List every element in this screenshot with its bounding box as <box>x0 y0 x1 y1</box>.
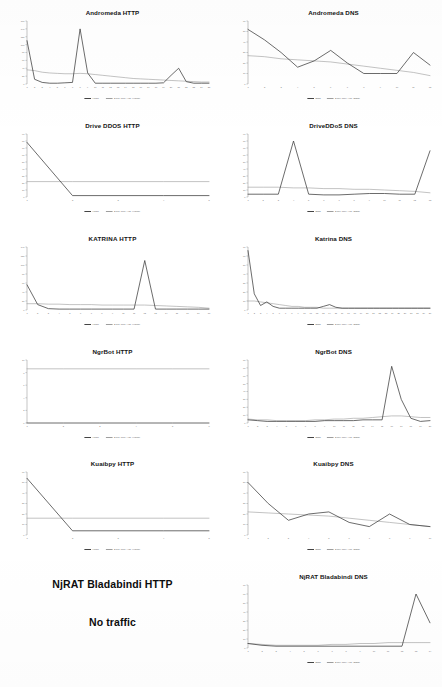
svg-text:8: 8 <box>345 650 347 652</box>
svg-text:40: 40 <box>242 41 245 43</box>
svg-text:50: 50 <box>21 482 24 484</box>
svg-text:80: 80 <box>21 51 24 53</box>
svg-text:4: 4 <box>162 538 164 540</box>
svg-text:30: 30 <box>242 398 245 400</box>
legend-trend-label: 2 per. Mov. Avg. (HTTP) <box>114 210 140 213</box>
legend-trend-line-icon <box>105 324 112 325</box>
svg-text:2: 2 <box>71 199 73 201</box>
chart-cell-njrat-http-no-traffic: NjRAT Bladabindi HTTP No traffic <box>4 570 221 683</box>
legend-trend-label: 2 per. Mov. Avg. (DNS) <box>335 436 360 439</box>
legend-line-icon <box>307 549 314 550</box>
chart-svg: 0102030405060708012345678910111213141516… <box>234 356 434 434</box>
plot-andromeda-http: 0204060801001201401601234567891011121314… <box>13 17 213 95</box>
svg-text:80: 80 <box>21 140 24 142</box>
svg-text:50: 50 <box>242 602 245 604</box>
chart-svg: 010203040506012345678910 <box>234 468 434 546</box>
svg-text:8: 8 <box>23 371 25 373</box>
chart-cell-katrina-dns: Katrina DNS 0102030405060701234567891011… <box>225 232 442 345</box>
legend-line-icon <box>85 324 92 325</box>
svg-text:120: 120 <box>20 36 24 38</box>
legend-trend-line-icon <box>105 549 112 550</box>
svg-text:10: 10 <box>122 312 125 314</box>
svg-text:60: 60 <box>21 471 24 473</box>
chart-title: KATRINA HTTP <box>88 235 136 242</box>
svg-text:5: 5 <box>308 199 310 201</box>
svg-text:3: 3 <box>275 650 277 652</box>
svg-text:28: 28 <box>416 312 419 314</box>
legend-trend-label: 2 per. Mov. Avg. (HTTP) <box>114 548 140 551</box>
svg-text:7: 7 <box>368 538 370 540</box>
legend-item-trend: 2 per. Mov. Avg. (DNS) <box>326 661 359 664</box>
svg-text:2: 2 <box>23 409 25 411</box>
legend-item-series: DNS <box>307 548 320 551</box>
svg-text:11: 11 <box>132 312 135 314</box>
svg-text:30: 30 <box>242 282 245 284</box>
legend-line-icon <box>85 437 92 438</box>
legend-item-trend: 2 per. Mov. Avg. (HTTP) <box>105 97 139 100</box>
chart-title: NgrBot DNS <box>315 348 352 355</box>
svg-text:160: 160 <box>20 20 24 22</box>
svg-text:1: 1 <box>247 86 249 88</box>
svg-text:2: 2 <box>33 86 35 88</box>
legend-item-series: HTTP <box>85 323 100 326</box>
svg-text:9: 9 <box>379 86 381 88</box>
svg-text:16: 16 <box>390 425 393 427</box>
svg-text:5: 5 <box>69 312 71 314</box>
svg-text:14: 14 <box>124 86 127 88</box>
chart-svg: 0204060801001201401601234567891011121314… <box>13 17 213 95</box>
svg-text:4: 4 <box>276 425 278 427</box>
legend-series-label: DNS <box>315 97 320 100</box>
svg-text:10: 10 <box>242 638 245 640</box>
chart-grid: Andromeda HTTP 0204060801001201401601234… <box>4 6 442 683</box>
svg-text:20: 20 <box>242 291 245 293</box>
svg-text:0: 0 <box>244 647 246 649</box>
svg-text:12: 12 <box>400 650 403 652</box>
legend-item-trend: 2 per. Mov. Avg. (HTTP) <box>105 548 139 551</box>
svg-text:80: 80 <box>21 273 24 275</box>
svg-text:23: 23 <box>384 312 387 314</box>
svg-text:3: 3 <box>277 199 279 201</box>
chart-legend: DNS 2 per. Mov. Avg. (DNS) <box>307 95 361 102</box>
chart-cell-kuaibpy-http: Kuaibpy HTTP 010203040506012345 HTTP 2 p… <box>4 457 221 570</box>
plot-driveddos-dns: 010203040506070809012345678910111213 <box>234 130 434 208</box>
svg-text:21: 21 <box>177 86 180 88</box>
svg-text:5: 5 <box>303 650 305 652</box>
svg-text:10: 10 <box>21 358 24 360</box>
svg-text:10: 10 <box>372 650 375 652</box>
chart-cell-andromeda-http: Andromeda HTTP 0204060801001201401601234… <box>4 6 221 119</box>
svg-text:9: 9 <box>297 312 299 314</box>
svg-text:8: 8 <box>353 199 355 201</box>
svg-text:23: 23 <box>192 86 195 88</box>
chart-cell-driveddos-dns: DriveDDoS DNS 01020304050607080901234567… <box>225 119 442 232</box>
svg-text:9: 9 <box>87 86 89 88</box>
svg-text:7: 7 <box>338 199 340 201</box>
svg-text:20: 20 <box>21 513 24 515</box>
svg-text:3: 3 <box>117 199 119 201</box>
chart-title: DriveDDoS DNS <box>309 122 357 129</box>
svg-text:6: 6 <box>23 384 25 386</box>
legend-item-series: HTTP <box>85 97 100 100</box>
chart-cell-njrat-dns: NjRAT Bladabindi DNS 0102030405060701234… <box>225 570 442 683</box>
svg-text:11: 11 <box>342 425 345 427</box>
svg-text:0: 0 <box>244 309 246 311</box>
svg-text:8: 8 <box>388 538 390 540</box>
svg-text:60: 60 <box>242 20 245 22</box>
svg-text:60: 60 <box>242 255 245 257</box>
svg-text:50: 50 <box>21 161 24 163</box>
svg-text:2: 2 <box>267 538 269 540</box>
svg-text:1: 1 <box>26 425 28 427</box>
svg-text:7: 7 <box>285 312 287 314</box>
svg-text:11: 11 <box>101 86 104 88</box>
svg-text:2: 2 <box>262 199 264 201</box>
legend-line-icon <box>307 324 314 325</box>
svg-text:13: 13 <box>116 86 119 88</box>
svg-text:11: 11 <box>386 650 389 652</box>
svg-text:4: 4 <box>162 199 164 201</box>
svg-text:6: 6 <box>330 86 332 88</box>
svg-text:3: 3 <box>41 86 43 88</box>
svg-text:17: 17 <box>400 425 403 427</box>
svg-text:90: 90 <box>21 133 24 135</box>
svg-text:8: 8 <box>363 86 365 88</box>
svg-text:1: 1 <box>26 312 28 314</box>
svg-text:13: 13 <box>414 650 417 652</box>
